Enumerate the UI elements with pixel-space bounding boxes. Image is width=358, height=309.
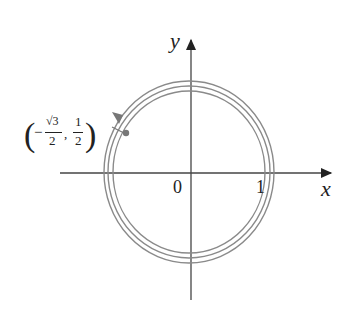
paren-close: ): [85, 116, 96, 154]
numerator-2: 1: [75, 114, 82, 130]
x-axis-label: x: [321, 176, 331, 202]
denominator-1: 2: [49, 133, 56, 149]
denominator-2: 2: [75, 133, 82, 149]
y-axis-label: y: [170, 28, 180, 54]
minus-sign: −: [34, 124, 42, 141]
sqrt-three: √3: [46, 114, 59, 129]
tick-label-1: 1: [256, 177, 265, 198]
spiral-curve: [104, 81, 274, 263]
origin-label: 0: [173, 177, 182, 198]
comma: ,: [64, 126, 67, 142]
point-marker: [123, 130, 129, 136]
point-label: ( − √3 2 , 1 2 ): [24, 112, 104, 160]
